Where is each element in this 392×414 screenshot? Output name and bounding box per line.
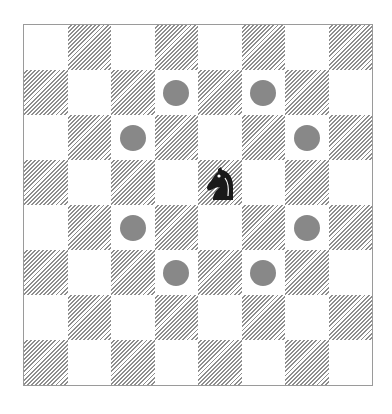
board-square: [68, 340, 112, 385]
board-square: [242, 340, 286, 385]
board-square: [198, 25, 242, 70]
board-square: [198, 250, 242, 295]
board-square: [155, 205, 199, 250]
board-square: [198, 115, 242, 160]
board-square: [111, 160, 155, 205]
board-square: [68, 25, 112, 70]
board-square: [68, 70, 112, 115]
board-square: [242, 70, 286, 115]
chess-board: [23, 24, 373, 386]
board-square: [24, 25, 68, 70]
board-square: [68, 115, 112, 160]
board-square: [111, 340, 155, 385]
board-square: [111, 205, 155, 250]
move-target-dot: [120, 125, 146, 151]
board-square: [285, 70, 329, 115]
board-square: [24, 295, 68, 340]
board-square: [329, 115, 373, 160]
board-square: [24, 340, 68, 385]
board-square: [24, 250, 68, 295]
board-square: [329, 25, 373, 70]
board-square: [155, 70, 199, 115]
board-square: [285, 340, 329, 385]
board-square: [155, 340, 199, 385]
board-square: [285, 250, 329, 295]
board-square: [24, 115, 68, 160]
board-square: [198, 70, 242, 115]
board-square: [329, 250, 373, 295]
move-target-dot: [294, 125, 320, 151]
board-square: [198, 295, 242, 340]
board-square: [111, 115, 155, 160]
board-square: [24, 70, 68, 115]
board-square: [68, 250, 112, 295]
board-square: [329, 205, 373, 250]
board-square: [24, 205, 68, 250]
board-square: [155, 250, 199, 295]
board-square: [329, 295, 373, 340]
board-square: [68, 160, 112, 205]
board-square: [155, 115, 199, 160]
board-square: [242, 295, 286, 340]
board-square: [155, 160, 199, 205]
board-square: [111, 250, 155, 295]
board-square: [285, 115, 329, 160]
knight-icon: [203, 166, 237, 202]
board-square: [198, 340, 242, 385]
board-square: [242, 115, 286, 160]
board-square: [285, 205, 329, 250]
board-square: [111, 295, 155, 340]
move-target-dot: [163, 260, 189, 286]
board-square: [198, 160, 242, 205]
move-target-dot: [250, 80, 276, 106]
board-square: [329, 340, 373, 385]
board-square: [24, 160, 68, 205]
board-square: [68, 295, 112, 340]
board-square: [198, 205, 242, 250]
board-square: [242, 160, 286, 205]
board-square: [285, 295, 329, 340]
board-square: [329, 70, 373, 115]
board-square: [242, 205, 286, 250]
board-square: [242, 25, 286, 70]
move-target-dot: [250, 260, 276, 286]
move-target-dot: [163, 80, 189, 106]
board-square: [111, 70, 155, 115]
board-square: [155, 295, 199, 340]
board-square: [242, 250, 286, 295]
board-square: [285, 25, 329, 70]
board-square: [68, 205, 112, 250]
board-square: [285, 160, 329, 205]
board-square: [155, 25, 199, 70]
board-square: [111, 25, 155, 70]
move-target-dot: [120, 215, 146, 241]
board-square: [329, 160, 373, 205]
move-target-dot: [294, 215, 320, 241]
